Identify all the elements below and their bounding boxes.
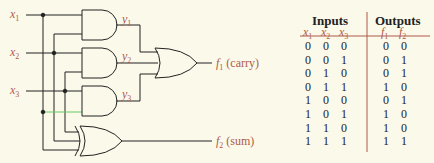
input-label-x2: x2: [10, 46, 19, 63]
y2-label: y2: [122, 50, 131, 67]
full-adder-figure: x1 x2 x3 y1 y2 y3 f1 (carry) f2 (sum) In…: [0, 0, 434, 163]
input-label-x1: x1: [10, 8, 19, 25]
y1-label: y1: [122, 13, 131, 30]
table-column-x1: 00001111: [301, 40, 315, 149]
table-column-f2: 01101001: [397, 40, 411, 149]
table-column-x3: 01010101: [337, 40, 351, 149]
table-column-x2: 00110011: [319, 40, 333, 149]
output-label-sum: f2 (sum): [216, 135, 254, 152]
input-label-x3: x3: [10, 84, 19, 101]
table-column-f1: 00010111: [379, 40, 393, 149]
output-label-carry: f1 (carry): [216, 57, 259, 74]
y3-label: y3: [122, 88, 131, 105]
